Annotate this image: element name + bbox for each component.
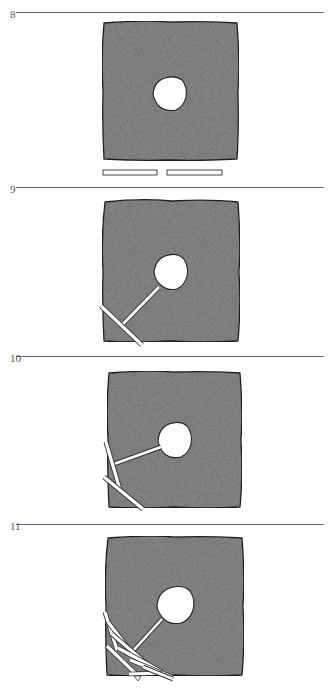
illustration-canvas <box>0 0 332 692</box>
hole <box>157 587 194 624</box>
panel-8-art <box>102 21 239 175</box>
loose-stick <box>103 170 157 175</box>
panel-10-art <box>104 371 242 509</box>
hole <box>158 422 192 457</box>
loose-stick <box>167 170 222 175</box>
hole <box>153 77 187 111</box>
panel-9-art <box>101 200 240 345</box>
panel-11-art <box>105 536 244 681</box>
